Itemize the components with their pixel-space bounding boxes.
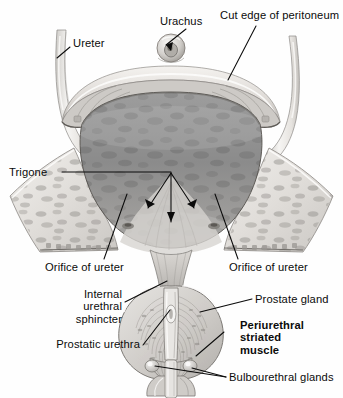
- label-prostatic-urethra: Prostatic urethra: [18, 338, 140, 350]
- label-internal-urethral-sphincter: Internal urethral sphincter: [36, 288, 122, 325]
- label-ureter: Ureter: [73, 37, 105, 49]
- label-orifice-of-ureter-right: Orifice of ureter: [229, 261, 308, 273]
- label-prostate-gland: Prostate gland: [255, 293, 329, 305]
- label-periurethral-striated-muscle: Periurethral striated muscle: [240, 319, 304, 356]
- prostatic-urethra: [164, 288, 179, 360]
- label-trigone: Trigone: [9, 166, 47, 178]
- label-bulbourethral-glands: Bulbourethral glands: [229, 371, 334, 383]
- label-orifice-of-ureter-left: Orifice of ureter: [45, 261, 124, 273]
- orifice-of-ureter-left-marker: [122, 223, 134, 229]
- anatomical-figure: Ureter Urachus Cut edge of peritoneum Tr…: [0, 0, 343, 398]
- label-urachus: Urachus: [160, 15, 202, 27]
- orifice-of-ureter-right-marker: [208, 223, 220, 229]
- label-cut-edge-of-peritoneum: Cut edge of peritoneum: [220, 9, 339, 21]
